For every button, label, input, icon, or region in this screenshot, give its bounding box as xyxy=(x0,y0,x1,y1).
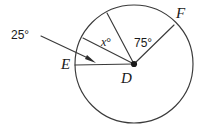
angle-label-x: x° xyxy=(101,36,111,48)
geometry-figure: 25° x° 75° E D F xyxy=(0,0,210,128)
point-label-e: E xyxy=(61,57,70,72)
point-label-f: F xyxy=(176,6,185,21)
center-point-dot xyxy=(131,61,137,67)
angle-label-25: 25° xyxy=(11,29,29,41)
point-label-d: D xyxy=(121,71,132,86)
angle-label-75: 75° xyxy=(134,37,152,49)
angle-degree-symbol-x: ° xyxy=(106,35,111,49)
